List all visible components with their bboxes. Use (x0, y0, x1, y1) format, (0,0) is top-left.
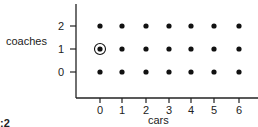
data-point (97, 46, 102, 51)
x-tick-label: 0 (97, 104, 103, 116)
data-point (236, 46, 241, 51)
data-point (119, 23, 124, 28)
figure-label: :2 (0, 117, 10, 127)
y-tick-label: 1 (58, 43, 64, 55)
data-point (211, 23, 216, 28)
data-point (166, 23, 171, 28)
data-point (143, 23, 148, 28)
data-point (236, 23, 241, 28)
data-point (143, 69, 148, 74)
data-point (211, 69, 216, 74)
x-tick-label: 1 (119, 104, 125, 116)
y-tick-label: 2 (58, 20, 64, 32)
data-point (188, 69, 193, 74)
x-ticks: 0123456 (97, 98, 242, 116)
data-points (95, 23, 242, 74)
data-point (143, 46, 148, 51)
data-point (188, 23, 193, 28)
x-tick-label: 4 (188, 104, 194, 116)
y-tick-label: 0 (58, 66, 64, 78)
data-point (166, 46, 171, 51)
data-point (97, 23, 102, 28)
y-ticks: 012 (58, 20, 76, 78)
y-axis-label: coaches (6, 35, 47, 47)
data-point (211, 46, 216, 51)
x-tick-label: 6 (236, 104, 242, 116)
data-point (119, 69, 124, 74)
x-tick-label: 5 (211, 104, 217, 116)
lattice-chart: 012 0123456 coaches cars (0, 0, 258, 127)
data-point (166, 69, 171, 74)
x-axis-label: cars (148, 114, 169, 126)
data-point (188, 46, 193, 51)
data-point (119, 46, 124, 51)
data-point (97, 69, 102, 74)
data-point (236, 69, 241, 74)
